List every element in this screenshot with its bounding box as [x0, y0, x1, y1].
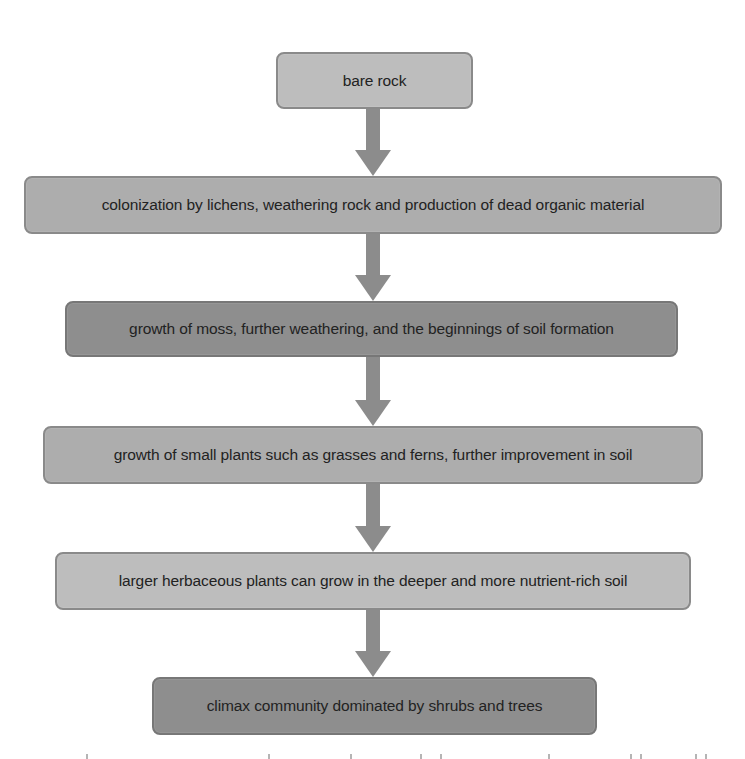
step-bare-rock: bare rock [276, 52, 473, 109]
down-arrow-icon [355, 109, 391, 176]
succession-flowchart: bare rock colonization by lichens, weath… [0, 0, 745, 759]
step-label: colonization by lichens, weathering rock… [102, 196, 645, 214]
down-arrow-icon [355, 484, 391, 552]
step-label: climax community dominated by shrubs and… [207, 697, 543, 715]
step-label: growth of small plants such as grasses a… [114, 446, 633, 464]
down-arrow-icon [355, 610, 391, 677]
cropped-caption-fragment [0, 752, 745, 759]
step-label: bare rock [343, 72, 407, 90]
step-label: larger herbaceous plants can grow in the… [119, 572, 628, 590]
step-lichen-colonization: colonization by lichens, weathering rock… [24, 176, 722, 234]
step-moss-growth: growth of moss, further weathering, and … [65, 301, 678, 357]
down-arrow-icon [355, 234, 391, 301]
step-herbaceous-plants: larger herbaceous plants can grow in the… [55, 552, 691, 610]
step-label: growth of moss, further weathering, and … [129, 320, 614, 338]
step-climax-community: climax community dominated by shrubs and… [152, 677, 597, 735]
down-arrow-icon [355, 357, 391, 426]
step-small-plants: growth of small plants such as grasses a… [43, 426, 703, 484]
